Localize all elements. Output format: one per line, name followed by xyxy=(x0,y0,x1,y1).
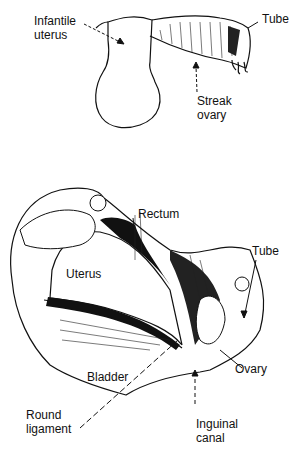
label-inguinal-canal: Inguinal canal xyxy=(196,417,238,445)
top-illustration xyxy=(0,0,306,462)
label-round-ligament: Round ligament xyxy=(26,408,71,436)
label-rectum: Rectum xyxy=(138,207,179,221)
round-ligament-leader xyxy=(80,340,178,428)
label-bladder: Bladder xyxy=(87,370,128,384)
infantile-uterus-shape xyxy=(96,17,160,128)
label-tube-bottom: Tube xyxy=(252,244,279,258)
label-tube-top: Tube xyxy=(262,12,289,26)
label-uterus: Uterus xyxy=(66,267,101,281)
streak-ovary-leader xyxy=(196,66,197,92)
tube-leader-top xyxy=(248,22,258,28)
label-ovary: Ovary xyxy=(235,362,267,376)
anatomy-figure: Infantile uterus Tube Streak ovary Rectu… xyxy=(0,0,306,462)
ovary-shape xyxy=(196,296,225,344)
label-infantile-uterus: Infantile uterus xyxy=(34,14,76,42)
uterus-shape xyxy=(50,232,182,345)
label-streak-ovary: Streak ovary xyxy=(197,94,232,122)
